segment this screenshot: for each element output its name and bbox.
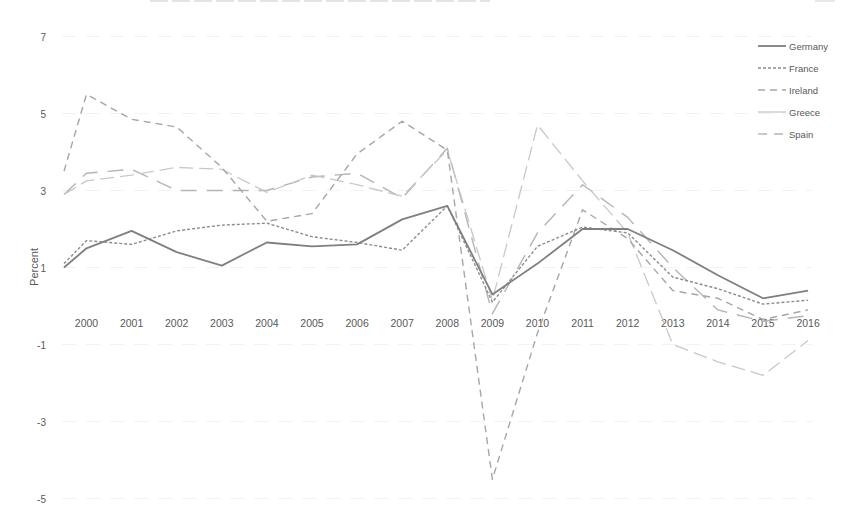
x-tick: 2006 [345,317,369,329]
series-line-greece [64,125,808,375]
x-tick: 2002 [165,317,189,329]
x-tick: 2005 [300,317,324,329]
legend-label-ireland: Ireland [789,85,818,96]
legend-label-germany: Germany [789,41,828,52]
x-tick: 2004 [255,317,279,329]
y-tick: -1 [37,340,46,351]
x-tick: 2001 [120,317,144,329]
x-tick: 2012 [616,317,640,329]
x-tick: 2003 [210,317,234,329]
y-tick: 1 [40,263,46,274]
y-axis-label: Percent [28,248,40,286]
x-tick: 2008 [436,317,460,329]
x-tick: 2016 [796,317,820,329]
gridlines [62,37,812,499]
x-axis: 2000200120022003200420052006200720082009… [75,317,820,329]
x-tick: 2013 [661,317,685,329]
line-chart: Percent 7 5 3 1 -1 -3 -5 200020012002200… [0,0,849,528]
x-tick: 2014 [706,317,730,329]
x-tick: 2009 [481,317,505,329]
y-tick: 5 [40,109,46,120]
series-line-spain [64,148,808,321]
legend-label-france: France [789,63,819,74]
y-tick: 7 [40,32,46,43]
x-tick: 2010 [526,317,550,329]
legend-label-greece: Greece [789,107,820,118]
x-tick: 2007 [391,317,415,329]
y-tick: -5 [37,494,46,505]
y-tick: 3 [40,186,46,197]
x-tick: 2000 [75,317,99,329]
y-tick: -3 [37,417,46,428]
x-tick: 2011 [571,317,594,329]
legend: GermanyFranceIrelandGreeceSpain [758,41,828,140]
series-line-germany [64,206,808,298]
y-axis: Percent 7 5 3 1 -1 -3 -5 [28,32,46,505]
legend-label-spain: Spain [789,129,813,140]
